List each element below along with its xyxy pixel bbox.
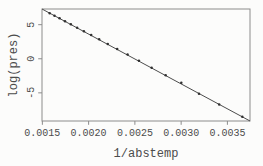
y-axis-label: log(pres): [7, 33, 21, 98]
y-axis-ticks: -505: [26, 22, 43, 99]
data-point: [48, 12, 51, 15]
data-point: [83, 30, 86, 33]
data-point: [64, 20, 67, 23]
data-point: [98, 38, 101, 41]
data-point: [76, 26, 79, 29]
y-tick-label: -5: [26, 87, 37, 99]
data-point: [164, 74, 167, 77]
data-point: [53, 14, 56, 17]
x-tick-label: 0.0015: [24, 128, 60, 139]
data-point: [180, 81, 183, 84]
data-point: [126, 53, 129, 56]
x-axis-label: 1/abstemp: [114, 147, 179, 161]
x-tick-label: 0.0025: [117, 128, 153, 139]
x-tick-label: 0.0020: [71, 128, 107, 139]
y-tick-label: 0: [26, 56, 37, 62]
scatter-chart: 0.00150.00200.00250.00300.0035 -505 1/ab…: [0, 0, 263, 166]
x-tick-label: 0.0030: [163, 128, 199, 139]
data-point: [198, 92, 201, 95]
data-point: [116, 48, 119, 51]
data-point: [107, 43, 110, 46]
data-point: [218, 103, 221, 106]
chart-screenshot: 0.00150.00200.00250.00300.0035 -505 1/ab…: [0, 0, 263, 166]
data-point: [90, 34, 93, 37]
x-tick-label: 0.0035: [209, 128, 245, 139]
data-point: [241, 116, 244, 119]
data-point: [70, 23, 73, 26]
data-point: [138, 59, 141, 62]
data-point: [58, 17, 61, 20]
data-point: [150, 66, 153, 69]
x-axis-ticks: 0.00150.00200.00250.00300.0035: [24, 121, 245, 139]
y-tick-label: 5: [26, 22, 37, 28]
